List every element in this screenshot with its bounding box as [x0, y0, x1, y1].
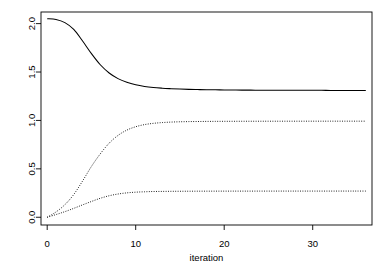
chart-background	[0, 0, 384, 268]
y-axis-tick-label: 0.0	[27, 211, 38, 224]
x-axis-tick-label: 0	[45, 238, 50, 249]
chart-figure: 0.00.51.01.52.0 0102030 iteration	[0, 0, 384, 268]
line-chart-canvas: 0.00.51.01.52.0 0102030 iteration	[0, 0, 384, 268]
y-axis-tick-label: 0.5	[27, 162, 38, 175]
y-axis-tick-label: 2.0	[27, 17, 38, 30]
y-axis-tick-label: 1.0	[27, 114, 38, 127]
x-axis-tick-label: 30	[307, 238, 318, 249]
x-axis-title: iteration	[190, 252, 224, 263]
x-axis-tick-label: 20	[219, 238, 230, 249]
y-axis-tick-label: 1.5	[27, 65, 38, 78]
x-axis-tick-label: 10	[130, 238, 141, 249]
